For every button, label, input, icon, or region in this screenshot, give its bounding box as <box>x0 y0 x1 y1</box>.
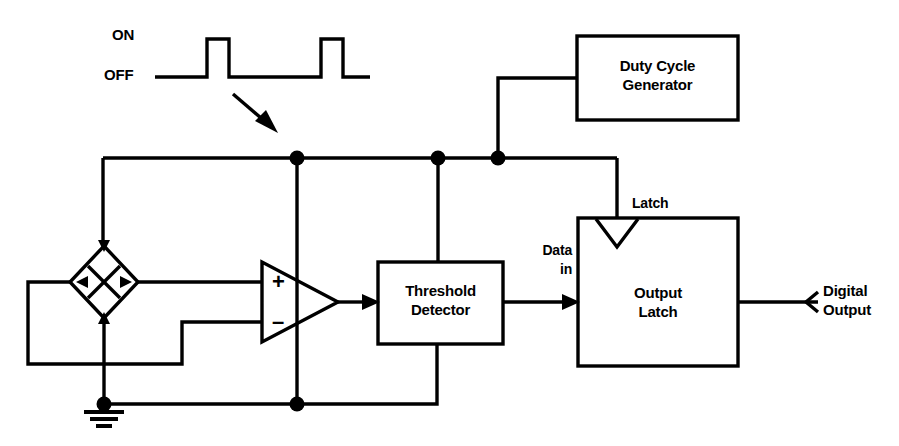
waveform-on-label: ON <box>112 27 134 44</box>
output-latch-label-line2: Latch <box>578 304 738 321</box>
excitation-waveform <box>155 39 370 77</box>
digital-output-path <box>738 292 818 312</box>
threshold-detector-label-line2: Detector <box>378 302 503 319</box>
circuit-diagram: ON OFF Duty Cycle Generator Threshold De… <box>0 0 899 446</box>
ground-return-bus <box>104 344 437 412</box>
pointer-arrow-icon <box>233 94 278 133</box>
junction-dot-threshold-supply <box>431 151 446 166</box>
latch-clock-triangle-icon <box>596 219 638 247</box>
excitation-bus <box>103 78 617 404</box>
duty-cycle-generator-label-line1: Duty Cycle <box>577 58 738 75</box>
data-in-label-line1: Data <box>514 243 572 259</box>
waveform-off-label: OFF <box>104 67 133 84</box>
op-amp-minus-label: – <box>272 310 284 335</box>
junction-dot-opamp-supply <box>290 151 305 166</box>
bridge-minus-path <box>28 282 262 364</box>
output-latch-label-line1: Output <box>578 285 738 302</box>
junction-dot-duty-cycle <box>491 151 506 166</box>
junction-dot-ground-return <box>290 397 305 412</box>
bridge-sensor <box>70 240 138 324</box>
data-in-path <box>503 294 580 310</box>
digital-output-label-line2: Output <box>823 302 871 319</box>
diagram-canvas <box>0 0 899 446</box>
ground-symbol-icon <box>84 397 124 427</box>
duty-cycle-generator-label-line2: Generator <box>577 77 738 94</box>
latch-input-label: Latch <box>632 196 668 212</box>
digital-output-label-line1: Digital <box>823 283 867 300</box>
threshold-detector-label-line1: Threshold <box>378 283 503 300</box>
opamp-output-path <box>338 294 380 310</box>
op-amp-plus-label: + <box>272 270 285 295</box>
data-in-label-line2: in <box>514 262 572 278</box>
